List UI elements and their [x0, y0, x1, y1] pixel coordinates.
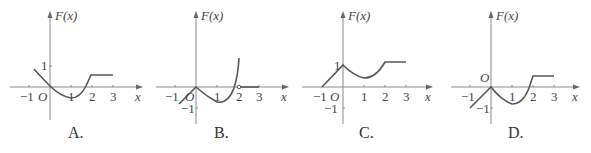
tick-label: −1	[476, 101, 490, 116]
option-label-d[interactable]: D.	[508, 124, 524, 142]
option-label-b[interactable]: B.	[214, 124, 229, 142]
y-axis-label: F(x)	[347, 8, 370, 23]
tick-label: 3	[110, 89, 117, 104]
tick-label: 1	[334, 58, 341, 73]
tick-label: 2	[382, 89, 389, 104]
y-axis-arrow-icon	[48, 11, 53, 18]
tick-label: 2	[530, 89, 537, 104]
x-axis-label: x	[134, 89, 141, 104]
tick-label: 1	[509, 89, 516, 104]
y-axis-label: F(x)	[495, 8, 518, 23]
tick-label: 2	[236, 89, 243, 104]
tick-label: −1	[181, 101, 195, 116]
tick-label: 3	[551, 89, 558, 104]
tick-label: 1	[361, 89, 368, 104]
tick-label: 3	[256, 89, 263, 104]
tick-label: 1	[68, 89, 75, 104]
tick-label: 1	[214, 89, 221, 104]
y-axis-arrow-icon	[194, 11, 199, 18]
option-label-c[interactable]: C.	[359, 124, 374, 142]
x-axis-label: x	[571, 89, 578, 104]
y-axis-label: F(x)	[54, 8, 77, 23]
graph-panel-a: F(x) x −1 O 1 2 3 1 A.	[0, 0, 148, 153]
tick-label: −1	[461, 89, 475, 104]
graph-panel-d: F(x) x −1 O 1 2 3 −1 D.	[443, 0, 591, 153]
tick-label: −1	[324, 101, 338, 116]
option-label-a[interactable]: A.	[68, 124, 84, 142]
tick-label: 1	[41, 58, 48, 73]
x-axis-label: x	[280, 89, 287, 104]
origin-label: O	[38, 89, 48, 104]
tick-label: −1	[20, 89, 34, 104]
tick-label: 3	[403, 89, 410, 104]
y-axis-label: F(x)	[200, 8, 223, 23]
x-axis-label: x	[424, 89, 431, 104]
tick-label: 2	[89, 89, 96, 104]
graph-panel-b: F(x) x −1 O 1 2 3 −1 B.	[148, 0, 296, 153]
y-axis-arrow-icon	[489, 11, 494, 18]
graph-panel-c: F(x) x −1 O 1 2 3 1 −1 C.	[296, 0, 444, 153]
y-axis-arrow-icon	[341, 11, 346, 18]
origin-label: O	[480, 70, 490, 85]
tick-label: −1	[165, 89, 179, 104]
